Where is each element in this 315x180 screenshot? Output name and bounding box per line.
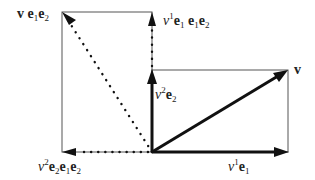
label-v1-e1-e1e2: v1e1 e1e2 xyxy=(163,12,209,30)
v-e1e2-arrowhead-icon xyxy=(62,12,76,25)
v-e1e2-dotted-arrow xyxy=(66,17,152,152)
label-v2-e2: v2e2 xyxy=(155,86,176,104)
v1-e1-arrowhead-icon xyxy=(274,147,289,157)
diagram-canvas: v v e1e2 v1e1 e1e2 v2e2 v2e2e1e2 v1e1 xyxy=(0,0,315,180)
v2-e2-arrowhead-icon xyxy=(147,69,157,84)
label-v1-e1: v1e1 xyxy=(228,158,249,176)
label-v-e1e2: v e1e2 xyxy=(17,7,49,23)
v2-e2-e1e2-arrowhead-icon xyxy=(62,148,76,156)
v-arrowhead-icon xyxy=(273,70,288,82)
label-v2-e2-e1e2: v2e2e1e2 xyxy=(38,158,81,176)
v1-e1-e1e2-arrowhead-icon xyxy=(148,12,156,26)
label-v: v xyxy=(294,63,301,77)
